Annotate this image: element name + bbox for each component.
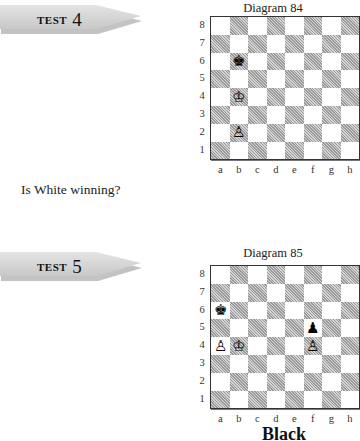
square-g1 — [322, 142, 341, 160]
square-a7 — [211, 284, 230, 302]
rank-label: 8 — [197, 268, 207, 279]
square-f1 — [304, 142, 323, 160]
file-label: b — [230, 164, 249, 175]
file-label: e — [285, 164, 304, 175]
square-b4: ♔ — [230, 88, 249, 106]
square-c8 — [248, 266, 267, 284]
square-a4 — [211, 88, 230, 106]
rank-label: 2 — [197, 126, 207, 137]
square-f1 — [304, 391, 323, 409]
square-a1 — [211, 391, 230, 409]
square-f4: ♙ — [304, 337, 323, 355]
square-d7 — [267, 35, 286, 53]
square-a4: ♙ — [211, 337, 230, 355]
square-e4 — [285, 337, 304, 355]
rank-label: 6 — [197, 55, 207, 66]
black-king-icon: ♚ — [232, 54, 245, 69]
square-h6 — [341, 302, 360, 320]
file-label: c — [248, 164, 267, 175]
square-h5 — [341, 70, 360, 88]
square-d2 — [267, 124, 286, 142]
square-f7 — [304, 284, 323, 302]
square-h2 — [341, 373, 360, 391]
square-c7 — [248, 35, 267, 53]
square-h7 — [341, 284, 360, 302]
square-f5 — [304, 70, 323, 88]
square-g5 — [322, 70, 341, 88]
rank-label: 3 — [197, 357, 207, 368]
file-label: g — [322, 413, 341, 424]
file-label: h — [341, 413, 360, 424]
square-d8 — [267, 266, 286, 284]
square-c4 — [248, 337, 267, 355]
banner-label: TEST 5 — [37, 254, 82, 276]
square-b1 — [230, 142, 249, 160]
square-g3 — [322, 355, 341, 373]
square-d1 — [267, 142, 286, 160]
square-b5 — [230, 319, 249, 337]
square-c3 — [248, 355, 267, 373]
square-f3 — [304, 106, 323, 124]
diagram-title: Diagram 84 — [198, 1, 348, 16]
square-f8 — [304, 266, 323, 284]
square-g6 — [322, 53, 341, 71]
square-d3 — [267, 355, 286, 373]
square-e5 — [285, 70, 304, 88]
square-e6 — [285, 53, 304, 71]
rank-label: 6 — [197, 304, 207, 315]
square-d5 — [267, 319, 286, 337]
file-label: a — [211, 413, 230, 424]
square-f6 — [304, 53, 323, 71]
square-c6 — [248, 53, 267, 71]
square-c1 — [248, 391, 267, 409]
square-f6 — [304, 302, 323, 320]
rank-label: 1 — [197, 393, 207, 404]
square-f8 — [304, 17, 323, 35]
rank-label: 7 — [197, 286, 207, 297]
square-g8 — [322, 266, 341, 284]
square-b3 — [230, 355, 249, 373]
square-a6 — [211, 53, 230, 71]
white-pawn-icon: ♙ — [214, 339, 227, 354]
square-e1 — [285, 391, 304, 409]
square-b8 — [230, 17, 249, 35]
rank-label: 4 — [197, 90, 207, 101]
square-d5 — [267, 70, 286, 88]
square-h3 — [341, 355, 360, 373]
rank-label: 2 — [197, 375, 207, 386]
square-a6: ♚ — [211, 302, 230, 320]
test-5-banner: TEST 5 — [0, 251, 142, 277]
square-a8 — [211, 266, 230, 284]
square-a5 — [211, 319, 230, 337]
square-e3 — [285, 106, 304, 124]
file-label: e — [285, 413, 304, 424]
square-c2 — [248, 373, 267, 391]
rank-label: 4 — [197, 339, 207, 350]
square-h1 — [341, 391, 360, 409]
square-b3 — [230, 106, 249, 124]
square-g3 — [322, 106, 341, 124]
rank-label: 8 — [197, 19, 207, 30]
square-d3 — [267, 106, 286, 124]
square-e7 — [285, 284, 304, 302]
diagram-title: Diagram 85 — [198, 246, 348, 261]
side-to-move-caption: Black — [262, 424, 306, 441]
square-a2 — [211, 373, 230, 391]
square-f2 — [304, 373, 323, 391]
square-h7 — [341, 35, 360, 53]
square-a1 — [211, 142, 230, 160]
square-h2 — [341, 124, 360, 142]
square-b6: ♚ — [230, 53, 249, 71]
square-g8 — [322, 17, 341, 35]
rank-label: 5 — [197, 321, 207, 332]
file-label: a — [211, 164, 230, 175]
chessboard-diagram-85: ♚♟♙♔♙ — [210, 265, 360, 409]
square-h5 — [341, 319, 360, 337]
square-a7 — [211, 35, 230, 53]
file-label: g — [322, 164, 341, 175]
square-c8 — [248, 17, 267, 35]
square-a5 — [211, 70, 230, 88]
square-g7 — [322, 35, 341, 53]
white-king-icon: ♔ — [232, 339, 245, 354]
square-d8 — [267, 17, 286, 35]
